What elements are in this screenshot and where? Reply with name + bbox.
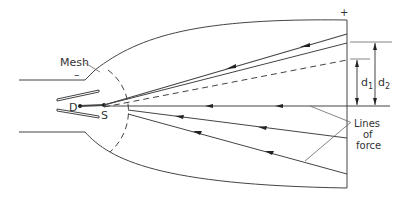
pointer-line-2 — [305, 122, 351, 161]
pointer-line-1 — [310, 106, 350, 122]
minus-label: – — [74, 68, 80, 81]
arrow-axis-1 — [205, 104, 213, 108]
mesh-arc — [108, 70, 129, 152]
d1-label: d1 — [361, 76, 373, 91]
upper-entrance-wall — [19, 20, 347, 80]
trajectory-undeflected — [104, 60, 347, 107]
trajectory-upper-2 — [104, 43, 347, 105]
plus-label: + — [340, 7, 348, 18]
arrow-lower-2b — [265, 151, 274, 155]
d2-arrow-top — [373, 43, 377, 50]
d2-arrow-bottom — [373, 98, 377, 105]
d1-arrow-bottom — [355, 98, 359, 105]
d1-arrow-top — [355, 60, 359, 67]
d-s-line — [80, 105, 104, 106]
lines-of-force-label-3: force — [356, 140, 381, 151]
s-point-label: S — [101, 109, 108, 122]
arrow-upper-2 — [300, 43, 310, 47]
arrow-lower-1a — [175, 115, 184, 119]
force-line-lower-1 — [128, 110, 347, 138]
arrow-upper-1 — [226, 64, 236, 69]
lines-of-force-label-2: of — [363, 129, 373, 140]
d-point-label: D — [69, 101, 77, 114]
source-slits — [57, 90, 99, 118]
lower-entrance-wall — [19, 132, 347, 188]
field-diagram: Mesh – + D S d1 d2 Lines of force — [0, 0, 407, 202]
trajectory-upper-1 — [104, 34, 347, 105]
d2-label: d2 — [378, 76, 390, 91]
arrow-axis-2 — [275, 104, 283, 108]
force-line-lower-2 — [128, 114, 347, 174]
lines-of-force-label-1: Lines — [354, 118, 380, 129]
point-d — [78, 104, 82, 108]
